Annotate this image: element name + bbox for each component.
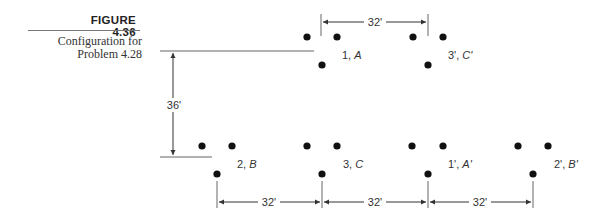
- circuit-phase: A': [461, 158, 472, 170]
- conductor-dot: [408, 142, 415, 149]
- conductor-dot: [424, 61, 431, 68]
- conductor-dot: [529, 170, 536, 177]
- conductor-dot: [198, 142, 205, 149]
- conductor-dot: [303, 33, 310, 40]
- conductor-dot: [424, 170, 431, 177]
- circuit-number: 2',: [554, 158, 565, 170]
- conductor-dot: [228, 142, 235, 149]
- top-dimension: 32': [321, 14, 428, 36]
- circuit-1pAp: 1', A': [408, 142, 472, 177]
- svg-text:3', C': 3', C': [448, 49, 473, 61]
- circuit-2B: 2, B: [198, 142, 256, 177]
- circuit-number: 3,: [343, 158, 352, 170]
- circuit-number: 3',: [448, 49, 459, 61]
- svg-text:1, A: 1, A: [342, 49, 362, 61]
- conductor-dot: [303, 142, 310, 149]
- conductor-dot: [333, 142, 340, 149]
- circuit-3pCp: 3', C': [409, 33, 473, 68]
- circuit-number: 2,: [237, 158, 246, 170]
- bottom-dimension: 32' 32' 32': [217, 181, 533, 208]
- bottom-spacing-label-1: 32': [262, 196, 276, 208]
- vertical-dimension: 36': [163, 53, 185, 155]
- vertical-spacing-label: 36': [167, 99, 181, 111]
- circuit-2pBp: 2', B': [514, 142, 578, 177]
- conductor-dot: [514, 142, 521, 149]
- conductor-dot: [213, 170, 220, 177]
- circuit-phase: B: [249, 158, 256, 170]
- circuit-phase: C': [462, 49, 473, 61]
- circuit-phase: C: [355, 158, 363, 170]
- bottom-spacing-label-2: 32': [368, 196, 382, 208]
- circuit-phase: B': [568, 158, 578, 170]
- conductor-dot: [439, 33, 446, 40]
- conductor-dot: [318, 61, 325, 68]
- circuit-3C: 3, C: [303, 142, 363, 177]
- svg-text:1', A': 1', A': [448, 158, 473, 170]
- conductor-configuration-diagram: 36' 32' 1, A 3', C' 2, B 3, C 1',: [0, 0, 593, 221]
- conductor-dot: [544, 142, 551, 149]
- circuit-phase: A: [353, 49, 361, 61]
- top-spacing-label: 32': [368, 16, 382, 28]
- svg-text:2, B: 2, B: [237, 158, 257, 170]
- conductor-dot: [318, 170, 325, 177]
- conductor-dot: [333, 33, 340, 40]
- svg-text:3, C: 3, C: [343, 158, 363, 170]
- circuit-number: 1,: [342, 49, 351, 61]
- svg-text:2', B': 2', B': [554, 158, 579, 170]
- circuit-number: 1',: [448, 158, 459, 170]
- bottom-spacing-label-3: 32': [473, 196, 487, 208]
- conductor-dot: [409, 33, 416, 40]
- conductor-dot: [439, 142, 446, 149]
